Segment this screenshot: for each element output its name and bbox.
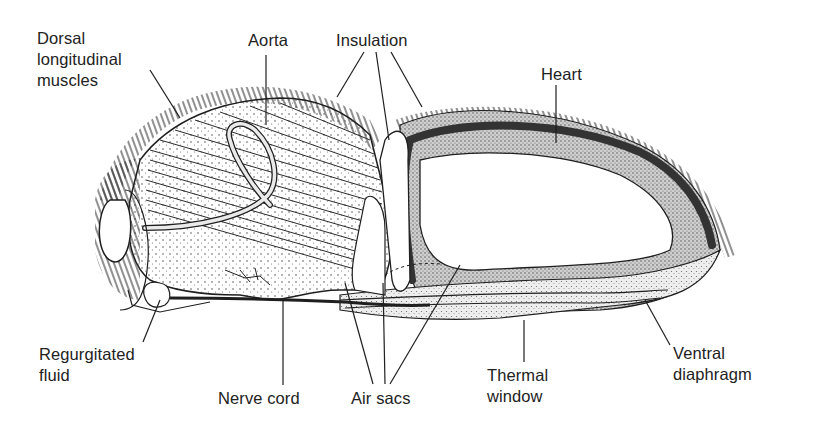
label-ventral-diaphragm: Ventral diaphragm — [673, 343, 752, 385]
label-thermal-window: Thermal window — [487, 365, 548, 407]
label-heart: Heart — [541, 64, 582, 85]
label-air-sacs: Air sacs — [351, 388, 410, 409]
label-regurgitated-fluid: Regurgitated fluid — [39, 344, 135, 386]
label-insulation: Insulation — [336, 30, 408, 51]
regurgitated-fluid-droplet — [144, 282, 170, 307]
label-aorta: Aorta — [248, 30, 288, 51]
leader-insulation-3 — [391, 52, 422, 107]
label-dorsal-longitudinal-muscles: Dorsal longitudinal muscles — [37, 28, 122, 91]
label-nerve-cord: Nerve cord — [218, 388, 300, 409]
eye — [99, 200, 130, 262]
leader-ventral-diaphragm — [645, 300, 670, 345]
thorax — [100, 87, 392, 300]
leader-insulation-2 — [376, 52, 389, 140]
leader-insulation-1 — [337, 52, 364, 97]
